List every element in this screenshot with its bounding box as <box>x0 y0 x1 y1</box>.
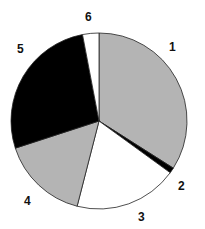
slice-label-3: 3 <box>138 211 145 223</box>
slice-label-5: 5 <box>17 43 24 55</box>
slice-label-1: 1 <box>169 41 176 53</box>
slice-label-2: 2 <box>178 180 185 192</box>
slice-label-6: 6 <box>85 11 92 23</box>
slice-label-4: 4 <box>24 195 31 207</box>
